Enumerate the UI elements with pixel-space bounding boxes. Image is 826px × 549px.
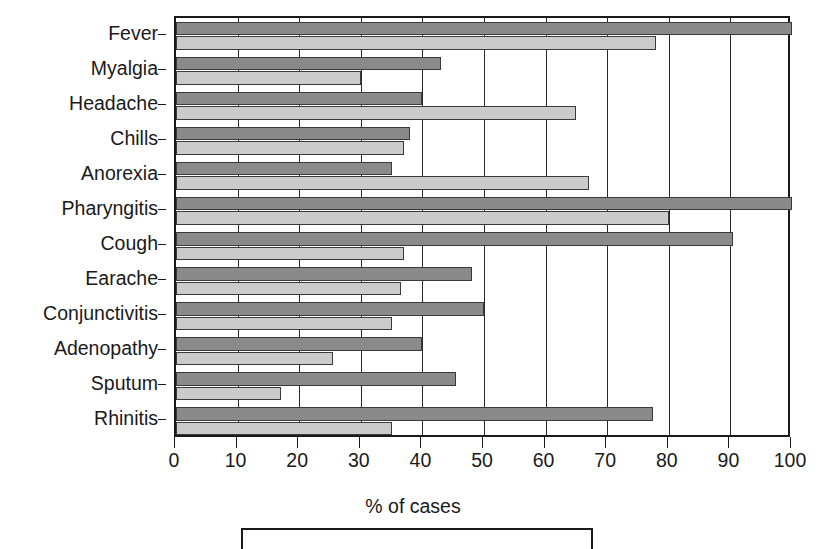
category-tick-pharyngitis bbox=[158, 209, 166, 210]
x-tick-label-10: 10 bbox=[225, 451, 247, 471]
bar-earache-series-1 bbox=[176, 267, 472, 281]
bar-chart: FeverMyalgiaHeadacheChillsAnorexiaPharyn… bbox=[0, 0, 826, 549]
bar-sputum-series-2 bbox=[176, 387, 281, 401]
bar-chills-series-1 bbox=[176, 127, 410, 141]
legend-box bbox=[241, 528, 593, 549]
bar-sputum-series-1 bbox=[176, 372, 456, 386]
x-tick-label-20: 20 bbox=[286, 451, 308, 471]
x-tick-50 bbox=[482, 437, 483, 448]
bar-fever-series-1 bbox=[176, 22, 792, 36]
gridline-50 bbox=[484, 18, 485, 435]
category-tick-fever bbox=[158, 34, 166, 35]
x-tick-label-100: 100 bbox=[774, 451, 807, 471]
x-tick-60 bbox=[544, 437, 545, 448]
bar-anorexia-series-1 bbox=[176, 162, 392, 176]
gridline-60 bbox=[546, 18, 547, 435]
category-tick-myalgia bbox=[158, 69, 166, 70]
category-label-myalgia: Myalgia bbox=[91, 59, 158, 79]
x-tick-80 bbox=[667, 437, 668, 448]
x-tick-label-60: 60 bbox=[533, 451, 555, 471]
category-label-anorexia: Anorexia bbox=[81, 164, 158, 184]
x-tick-20 bbox=[297, 437, 298, 448]
x-tick-100 bbox=[790, 437, 791, 448]
category-label-headache: Headache bbox=[69, 94, 158, 114]
bar-myalgia-series-1 bbox=[176, 57, 441, 71]
bar-cough-series-2 bbox=[176, 247, 404, 261]
category-tick-anorexia bbox=[158, 174, 166, 175]
category-tick-sputum bbox=[158, 384, 166, 385]
bar-conjunctivitis-series-2 bbox=[176, 317, 392, 331]
category-label-cough: Cough bbox=[101, 234, 158, 254]
category-label-conjunctivitis: Conjunctivitis bbox=[43, 304, 158, 324]
x-tick-label-80: 80 bbox=[656, 451, 678, 471]
x-tick-label-50: 50 bbox=[471, 451, 493, 471]
bar-chills-series-2 bbox=[176, 141, 404, 155]
bar-headache-series-1 bbox=[176, 92, 422, 106]
x-tick-label-90: 90 bbox=[718, 451, 740, 471]
category-tick-conjunctivitis bbox=[158, 314, 166, 315]
bar-conjunctivitis-series-1 bbox=[176, 302, 484, 316]
x-tick-40 bbox=[420, 437, 421, 448]
category-tick-headache bbox=[158, 104, 166, 105]
x-tick-label-0: 0 bbox=[169, 451, 180, 471]
gridline-70 bbox=[607, 18, 608, 435]
category-label-adenopathy: Adenopathy bbox=[54, 339, 158, 359]
bar-earache-series-2 bbox=[176, 282, 401, 296]
plot-area bbox=[174, 16, 790, 437]
category-label-chills: Chills bbox=[110, 129, 158, 149]
x-tick-30 bbox=[359, 437, 360, 448]
bar-anorexia-series-2 bbox=[176, 176, 589, 190]
category-tick-chills bbox=[158, 139, 166, 140]
category-axis: FeverMyalgiaHeadacheChillsAnorexiaPharyn… bbox=[0, 16, 166, 437]
bar-rhinitis-series-1 bbox=[176, 407, 653, 421]
bar-pharyngitis-series-1 bbox=[176, 197, 792, 211]
bar-pharyngitis-series-2 bbox=[176, 211, 669, 225]
x-tick-label-30: 30 bbox=[348, 451, 370, 471]
gridline-80 bbox=[669, 18, 670, 435]
category-label-sputum: Sputum bbox=[91, 374, 158, 394]
bar-rhinitis-series-2 bbox=[176, 422, 392, 436]
x-tick-90 bbox=[728, 437, 729, 448]
category-label-earache: Earache bbox=[85, 269, 158, 289]
gridline-90 bbox=[730, 18, 731, 435]
bar-headache-series-2 bbox=[176, 106, 576, 120]
bar-cough-series-1 bbox=[176, 232, 733, 246]
category-label-pharyngitis: Pharyngitis bbox=[62, 199, 158, 219]
x-tick-label-70: 70 bbox=[594, 451, 616, 471]
bar-myalgia-series-2 bbox=[176, 71, 361, 85]
category-label-rhinitis: Rhinitis bbox=[94, 409, 158, 429]
x-tick-10 bbox=[236, 437, 237, 448]
category-tick-adenopathy bbox=[158, 349, 166, 350]
category-tick-cough bbox=[158, 244, 166, 245]
x-tick-70 bbox=[605, 437, 606, 448]
x-tick-label-40: 40 bbox=[410, 451, 432, 471]
category-tick-earache bbox=[158, 279, 166, 280]
bar-adenopathy-series-2 bbox=[176, 352, 333, 366]
x-axis-label: % of cases bbox=[0, 495, 826, 518]
category-label-fever: Fever bbox=[108, 24, 158, 44]
category-tick-rhinitis bbox=[158, 419, 166, 420]
bar-adenopathy-series-1 bbox=[176, 337, 422, 351]
x-tick-0 bbox=[174, 437, 175, 448]
bar-fever-series-2 bbox=[176, 36, 656, 50]
